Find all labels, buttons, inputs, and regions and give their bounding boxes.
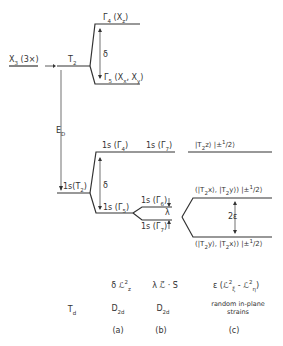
1s-gamma4-label: 1s (Γ4) bbox=[102, 142, 128, 150]
lambda-label: λ bbox=[165, 209, 170, 217]
strain-desc-2: strains bbox=[227, 309, 249, 316]
symmetry-td: Td bbox=[68, 306, 76, 314]
delta-bottom-label: δ bbox=[103, 182, 108, 190]
hamiltonian-c: ε (ℒ2ξ - ℒ2η) bbox=[213, 282, 259, 290]
1s-gamma7-label: 1s (Γ7) bbox=[141, 223, 167, 231]
energy-level-diagram-lines bbox=[0, 0, 283, 346]
1s-t2-label: 1s(T2) bbox=[63, 183, 87, 191]
t2-label: T2 bbox=[68, 56, 76, 64]
symmetry-b: D2d bbox=[156, 305, 169, 313]
symmetry-a: D2d bbox=[111, 305, 124, 313]
two-epsilon-label: 2ε bbox=[228, 213, 237, 221]
x3-label: X3 (3×) bbox=[9, 56, 39, 64]
state-t2y-t2x-label: (|T2y⟩, |T2x⟩) |±1/2⟩ bbox=[195, 241, 262, 248]
tag-b: (b) bbox=[155, 327, 166, 335]
tag-c: (c) bbox=[229, 327, 240, 335]
1s-gamma5-label: 1s (Γ5) bbox=[103, 204, 129, 212]
gamma5-label: Γ5 (Xx, Xy) bbox=[104, 74, 143, 82]
1s-gamma7-top-label: 1s (Γ7) bbox=[146, 142, 172, 150]
hamiltonian-b: λ ℒ⃗ · S⃗ bbox=[152, 282, 178, 290]
1s-gamma6-label: 1s (Γ6) bbox=[141, 197, 167, 205]
delta-top-label: δ bbox=[103, 51, 108, 59]
state-t2z-label: |T2z⟩ |±1/2⟩ bbox=[195, 142, 235, 149]
ed-label: ED bbox=[56, 127, 65, 135]
hamiltonian-a: δ ℒ2z bbox=[111, 282, 131, 290]
strain-desc-1: random in-plane bbox=[211, 301, 265, 308]
state-t2x-t2y-label: (|T2x⟩, |T2y⟩) |±1/2⟩ bbox=[195, 187, 262, 194]
tag-a: (a) bbox=[112, 327, 123, 335]
gamma4-label: Γ4 (Xz) bbox=[103, 14, 128, 22]
